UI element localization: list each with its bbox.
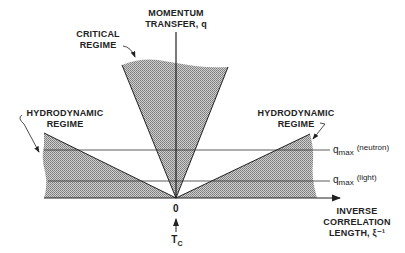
qmax-neutron-label: qmax(neutron) [333,143,389,157]
qmax-light-label: qmax(light) [333,173,377,187]
vertical-axis-label-line2: TRANSFER, q [143,19,209,30]
horizontal-axis-label: INVERSE CORRELATION LENGTH, ξ⁻¹ [320,206,394,239]
hydro-right-line1: HYDRODYNAMIC [255,108,337,119]
critical-regime-line2: REGIME [72,40,124,51]
vertical-axis-label-line1: MOMENTUM [143,8,209,19]
qmax-neutron-paren: (neutron) [357,143,389,152]
vertical-axis-label: MOMENTUM TRANSFER, q [143,8,209,30]
tc-label: TC [166,234,188,249]
horizontal-axis-line3: LENGTH, ξ⁻¹ [320,228,394,239]
hydro-right-line2: REGIME [255,119,337,130]
horizontal-axis-line2: CORRELATION [320,217,394,228]
critical-pointer-icon [123,46,135,57]
qmax-light-paren: (light) [357,173,377,182]
critical-regime-line1: CRITICAL [72,29,124,40]
critical-regime-label: CRITICAL REGIME [72,29,124,51]
hydro-right-label: HYDRODYNAMIC REGIME [255,108,337,130]
tc-label-sub: C [178,240,183,247]
hydro-left-line2: REGIME [24,119,106,130]
horizontal-axis-line1: INVERSE [320,206,394,217]
qmax-light-sub: max [339,178,354,187]
critical-region [122,60,228,198]
hydro-left-label: HYDRODYNAMIC REGIME [24,108,106,130]
origin-label: 0 [170,203,182,214]
hydro-left-line1: HYDRODYNAMIC [24,108,106,119]
qmax-neutron-sub: max [339,148,354,157]
